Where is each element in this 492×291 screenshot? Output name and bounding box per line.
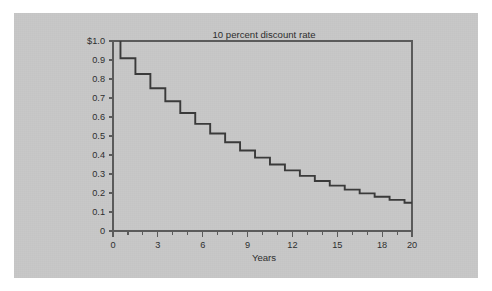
x-axis: 036912151820 [110, 231, 417, 250]
x-tick-label: 20 [407, 240, 417, 250]
discount-factor-step-line [120, 41, 412, 203]
chart-title: 10 percent discount rate [213, 29, 316, 40]
y-tick-label: 0.4 [92, 150, 105, 160]
y-tick-label: 0.3 [92, 169, 105, 179]
series-group [120, 41, 412, 203]
y-tick-label: 0.5 [92, 131, 105, 141]
y-tick-label: 0.2 [92, 188, 105, 198]
y-tick-label: $1.0 [87, 36, 105, 46]
chart-panel: 10 percent discount rate 00.10.20.30.40.… [14, 13, 478, 278]
x-tick-label: 9 [245, 240, 250, 250]
x-tick-label: 15 [332, 240, 342, 250]
x-tick-label: 3 [155, 240, 160, 250]
plot-frame [113, 41, 412, 231]
y-tick-label: 0.9 [92, 55, 105, 65]
y-tick-label: 0 [100, 226, 105, 236]
discount-rate-step-chart: 10 percent discount rate 00.10.20.30.40.… [14, 13, 478, 278]
x-axis-title: Years [252, 252, 276, 263]
x-tick-label: 18 [377, 240, 387, 250]
axis-frame [113, 41, 412, 231]
x-tick-label: 0 [110, 240, 115, 250]
figure-root: 10 percent discount rate 00.10.20.30.40.… [0, 0, 492, 291]
y-tick-label: 0.1 [92, 207, 105, 217]
y-tick-label: 0.7 [92, 93, 105, 103]
y-axis: 00.10.20.30.40.50.60.70.80.9$1.0 [87, 36, 113, 236]
x-tick-label: 6 [200, 240, 205, 250]
x-tick-label: 12 [287, 240, 297, 250]
y-tick-label: 0.8 [92, 74, 105, 84]
y-tick-label: 0.6 [92, 112, 105, 122]
